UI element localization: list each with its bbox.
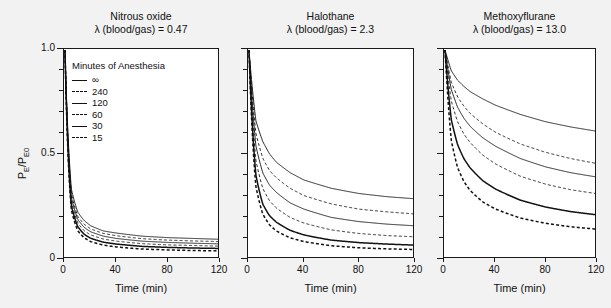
y-tick-mark-minor (439, 195, 443, 196)
y-tick-mark-minor (439, 69, 443, 70)
plot-area (443, 48, 596, 258)
curve-60 (445, 50, 596, 194)
panel-title: Methoxyfluraneλ (blood/gas) = 13.0 (443, 10, 596, 36)
y-tick-mark-minor (439, 216, 443, 217)
y-tick-mark-minor (439, 132, 443, 133)
x-tick-label: 80 (539, 264, 550, 275)
curve-120 (445, 50, 596, 177)
x-tick-mark (545, 258, 546, 262)
x-tick-label: 40 (488, 264, 499, 275)
y-tick-mark-minor (439, 237, 443, 238)
y-tick-mark-major (437, 153, 443, 154)
x-tick-mark (443, 258, 444, 262)
x-tick-mark (596, 258, 597, 262)
curves-svg (444, 49, 597, 259)
y-tick-mark-minor (439, 90, 443, 91)
y-tick-mark-major (437, 258, 443, 259)
curve-infinity (445, 50, 596, 131)
curve-240 (445, 50, 596, 163)
x-axis-label: Time (min) (443, 282, 596, 294)
y-tick-mark-minor (439, 111, 443, 112)
panel-subtitle-text: λ (blood/gas) = 13.0 (443, 23, 596, 36)
x-tick-label: 0 (440, 264, 446, 275)
y-tick-mark-minor (439, 174, 443, 175)
x-tick-mark (494, 258, 495, 262)
y-tick-mark-major (437, 48, 443, 49)
x-tick-label: 120 (588, 264, 605, 275)
curve-15 (445, 50, 596, 229)
anesthetic-washout-figure: Nitrous oxideλ (blood/gas) = 0.470408012… (0, 0, 611, 308)
panel-title-text: Methoxyflurane (484, 10, 556, 22)
panel-methoxyflurane: Methoxyfluraneλ (blood/gas) = 13.0040801… (0, 0, 611, 308)
